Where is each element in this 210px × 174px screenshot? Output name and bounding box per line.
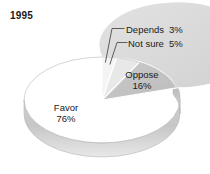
slice-label-oppose-name: Oppose [125, 69, 158, 80]
slice-label-not-sure-name: Not sure [128, 38, 164, 49]
slice-label-oppose-value: 16% [118, 80, 166, 91]
slice-label-depends-value: 3% [169, 24, 183, 35]
slice-label-depends: Depends3% [126, 24, 183, 35]
slice-label-oppose: Oppose 16% [118, 69, 166, 91]
slice-label-favor: Favor 76% [42, 102, 90, 124]
slice-label-not-sure-value: 5% [169, 38, 183, 49]
slice-label-favor-value: 76% [42, 113, 90, 124]
slice-label-not-sure: Not sure5% [128, 38, 183, 49]
slice-label-depends-name: Depends [126, 24, 164, 35]
slice-label-favor-name: Favor [54, 102, 78, 113]
pie-chart: 1995 [0, 0, 210, 174]
